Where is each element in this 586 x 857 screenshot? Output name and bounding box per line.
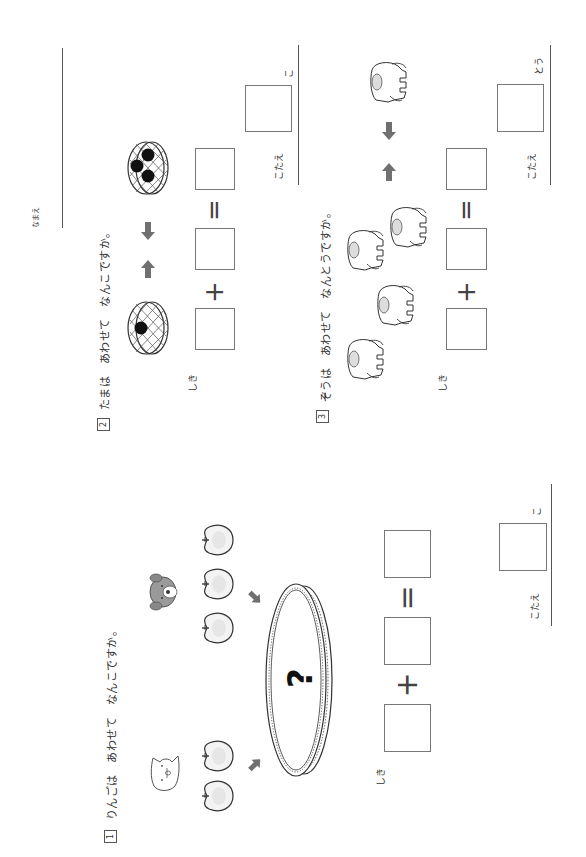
question-text: りんごは あわせて なんこですか。 — [103, 625, 119, 821]
elephant-icon — [368, 60, 408, 104]
answer-input-box[interactable] — [195, 228, 235, 270]
answer-unit: とう — [532, 57, 545, 75]
answer-label: こたえ — [528, 593, 541, 620]
section-2-answer-line — [298, 45, 299, 185]
answer-input-box[interactable] — [446, 148, 487, 190]
section-number: 1 — [104, 830, 117, 843]
final-answer-box[interactable] — [497, 84, 544, 132]
question-text: ぞうは あわせて なんとうですか。 — [317, 207, 333, 403]
name-line[interactable] — [62, 48, 63, 228]
elephant-icon — [375, 283, 415, 327]
cat-icon — [150, 752, 180, 792]
section-1-answer-line — [551, 484, 552, 626]
elephant-icon — [345, 337, 385, 381]
equation-label: しき — [436, 374, 449, 392]
name-label: なまえ — [30, 207, 40, 228]
equals-sign: = — [453, 196, 479, 224]
plus-sign: + — [392, 670, 422, 700]
answer-unit: こ — [282, 69, 295, 78]
apple-icon — [201, 567, 235, 601]
answer-label: こたえ — [272, 153, 285, 180]
final-answer-box[interactable] — [499, 523, 547, 571]
answer-input-box[interactable] — [446, 228, 487, 270]
apple-icon — [201, 611, 235, 645]
basket-icon — [124, 300, 170, 356]
section-3-answer-line — [550, 45, 551, 185]
answer-input-box[interactable] — [384, 704, 431, 752]
apple-icon — [201, 739, 235, 773]
plus-sign: + — [453, 278, 479, 306]
equals-sign: = — [201, 196, 227, 224]
equals-sign: = — [392, 583, 422, 613]
elephant-icon — [388, 205, 428, 249]
answer-input-box[interactable] — [195, 308, 235, 350]
arrow-down-icon — [141, 222, 155, 240]
elephant-icon — [345, 228, 385, 272]
arrow-down-icon — [382, 122, 396, 140]
question-text: たまは あわせて なんこですか。 — [96, 226, 112, 410]
equation-label: しき — [374, 768, 387, 786]
answer-label: こたえ — [525, 153, 538, 180]
answer-input-box[interactable] — [195, 148, 235, 190]
basket-icon — [124, 140, 170, 196]
apple-icon — [201, 779, 235, 813]
plus-sign: + — [201, 278, 227, 306]
final-answer-box[interactable] — [245, 85, 292, 132]
arrow-up-icon — [382, 163, 396, 181]
answer-input-box[interactable] — [384, 617, 431, 665]
answer-input-box[interactable] — [384, 530, 431, 578]
apple-icon — [201, 523, 235, 557]
answer-unit: こ — [530, 507, 543, 516]
arrow-up-icon — [141, 260, 155, 278]
answer-input-box[interactable] — [446, 308, 487, 350]
equation-label: しき — [186, 374, 199, 392]
dog-icon — [148, 573, 180, 611]
section-number: 3 — [316, 410, 329, 423]
section-number: 2 — [97, 418, 110, 431]
question-mark: ? — [282, 660, 318, 696]
